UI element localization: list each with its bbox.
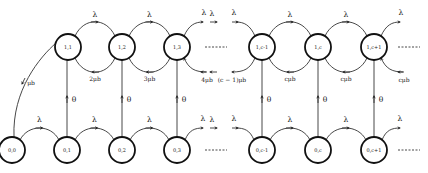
forward-arc — [325, 22, 367, 36]
mu-label: cμb — [340, 75, 351, 83]
mu-label: (c − 1)μb — [218, 76, 247, 84]
mu-label: cμb — [284, 75, 295, 83]
theta-label: θ — [379, 95, 384, 104]
node-label: 1,3 — [173, 44, 181, 50]
lambda-label: λ — [93, 10, 98, 19]
lambda-label: λ — [37, 115, 42, 124]
theta-label: θ — [127, 95, 132, 104]
node-label: 0,1 — [63, 147, 71, 153]
state-node: 0,c — [305, 137, 331, 163]
state-node: 1,c — [305, 34, 331, 60]
lambda-label: λ — [399, 8, 404, 17]
lambda-label: λ — [210, 9, 215, 18]
backward-arc — [129, 58, 170, 72]
node-label: 0,c-1 — [256, 147, 268, 153]
state-node: 1,2 — [109, 34, 135, 60]
node-label: 1,c — [314, 44, 322, 50]
theta-label: θ — [72, 95, 77, 104]
theta-label: θ — [267, 95, 272, 104]
labels: λ2μbλ3μbλcμbλcμbλ4μbλcμbλ(c − 1)μbλλλλλλ… — [27, 8, 410, 124]
lambda-label: λ — [288, 10, 293, 19]
mu-label: μb — [27, 79, 35, 87]
node-label: 0,c+1 — [367, 147, 382, 153]
state-node: 0,c+1 — [361, 137, 387, 163]
lambda-label: λ — [232, 114, 237, 123]
node-label: 0,0 — [8, 147, 16, 153]
node-label: 1,1 — [64, 44, 72, 50]
state-node: 1,c+1 — [361, 34, 387, 60]
state-node: 1,1 — [55, 34, 81, 60]
theta-label: θ — [323, 95, 328, 104]
forward-arc — [269, 22, 311, 36]
lambda-label: λ — [344, 115, 349, 124]
lambda-label: λ — [232, 8, 237, 17]
node-label: 1,c-1 — [256, 44, 268, 50]
mu-label: 2μb — [89, 75, 101, 83]
lambda-label: λ — [210, 115, 215, 124]
state-node: 1,3 — [164, 34, 190, 60]
node-label: 0,3 — [173, 147, 181, 153]
state-node: 0,2 — [109, 137, 135, 163]
lambda-label: λ — [201, 114, 206, 123]
markov-chain-diagram: 1,11,21,31,c-11,c1,c+10,00,10,20,30,c-10… — [0, 0, 428, 173]
lambda-label: λ — [147, 10, 152, 19]
node-label: 0,c — [314, 147, 322, 153]
backward-arc — [325, 58, 367, 72]
node-label: 0,2 — [118, 147, 126, 153]
node-label: 1,2 — [118, 44, 126, 50]
backward-arc — [75, 58, 115, 72]
state-node: 0,1 — [54, 137, 80, 163]
forward-arc — [75, 22, 115, 36]
forward-arc — [129, 22, 170, 36]
state-node: 0,3 — [164, 137, 190, 163]
lambda-label: λ — [398, 114, 403, 123]
state-node: 0,0 — [0, 137, 25, 163]
lambda-label: λ — [92, 115, 97, 124]
nodes: 1,11,21,31,c-11,c1,c+10,00,10,20,30,c-10… — [0, 34, 387, 163]
lambda-label: λ — [147, 115, 152, 124]
theta-label: θ — [182, 95, 187, 104]
lambda-label: λ — [202, 8, 207, 17]
mu-label: 3μb — [144, 75, 156, 83]
backward-arc — [269, 58, 311, 72]
node-label: 1,c+1 — [367, 44, 382, 50]
state-node: 0,c-1 — [249, 137, 275, 163]
mu-label: cμb — [398, 76, 409, 84]
mu-label: 4μb — [201, 76, 213, 84]
state-node: 1,c-1 — [249, 34, 275, 60]
lambda-label: λ — [288, 115, 293, 124]
lambda-label: λ — [344, 10, 349, 19]
